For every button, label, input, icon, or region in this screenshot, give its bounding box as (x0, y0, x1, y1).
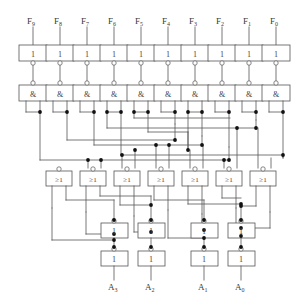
buffer-symbol: 1 (58, 50, 62, 59)
input-label-index: 9 (32, 21, 35, 27)
buffer-symbol: 1 (149, 255, 153, 264)
buffer-symbol: 1 (193, 50, 197, 59)
svg-text:F8: F8 (54, 16, 62, 27)
buffer-symbol: 1 (202, 227, 206, 236)
output-buffer-row (101, 251, 255, 266)
output-stems (114, 266, 241, 280)
buffer-symbol: 1 (220, 50, 224, 59)
buffer-symbol: 1 (239, 227, 243, 236)
or-symbol: ≥1 (55, 176, 63, 184)
input-labels: F9 F8 F7 F6 F5 F4 F3 F2 F1 F0 (27, 16, 278, 27)
buffer-symbol: 1 (112, 255, 116, 264)
or-symbol: ≥1 (89, 176, 97, 184)
or-symbol: ≥1 (191, 176, 199, 184)
input-label-index: 2 (221, 21, 224, 27)
logic-circuit-svg: 1 1 1 1 1 1 1 1 1 1 & & & & & & & & & & … (0, 0, 301, 297)
svg-text:F6: F6 (108, 16, 116, 27)
and-symbol: & (57, 90, 64, 99)
input-label-index: 3 (194, 21, 197, 27)
svg-text:A2: A2 (145, 282, 155, 293)
input-label-index: 7 (86, 21, 89, 27)
and-symbol: & (30, 90, 37, 99)
buffer-symbol: 1 (274, 50, 278, 59)
or-symbol: ≥1 (225, 176, 233, 184)
svg-text:F3: F3 (189, 16, 197, 27)
svg-text:F4: F4 (162, 16, 170, 27)
or-row (80, 171, 276, 186)
output-label-index: 2 (152, 287, 155, 293)
logic-diagram-canvas: 1 1 1 1 1 1 1 1 1 1 & & & & & & & & & & … (0, 0, 301, 297)
or-symbol: ≥1 (123, 176, 131, 184)
buffer-symbol: 1 (247, 50, 251, 59)
buffer-symbol: 1 (149, 227, 153, 236)
buffer-symbol: 1 (112, 50, 116, 59)
buffer-symbol: 1 (31, 50, 35, 59)
mid-to-out-wires (114, 238, 241, 248)
and-output-stubs (26, 101, 283, 112)
or-symbol: ≥1 (259, 176, 267, 184)
and-symbol: & (219, 90, 226, 99)
and-symbol: & (273, 90, 280, 99)
input-label-index: 6 (113, 21, 116, 27)
svg-text:F9: F9 (27, 16, 35, 27)
output-label-index: 3 (115, 287, 118, 293)
and-symbol: & (84, 90, 91, 99)
buffer-symbol: 1 (139, 50, 143, 59)
svg-text:A1: A1 (198, 282, 208, 293)
svg-text:F5: F5 (135, 16, 143, 27)
svg-text:A3: A3 (108, 282, 118, 293)
output-label-index: 0 (242, 287, 245, 293)
output-labels: A3 A2 A1 A0 (108, 282, 245, 293)
input-label-index: 1 (248, 21, 251, 27)
svg-text:F0: F0 (270, 16, 278, 27)
routing-mesh (26, 112, 283, 168)
svg-text:A0: A0 (235, 282, 245, 293)
input-stems (33, 27, 276, 45)
or-symbol: ≥1 (157, 176, 165, 184)
buffer-symbol: 1 (202, 255, 206, 264)
buffer-symbol: 1 (166, 50, 170, 59)
buffer-symbol: 1 (85, 50, 89, 59)
and-symbol: & (192, 90, 199, 99)
and-symbol: & (111, 90, 118, 99)
svg-text:F2: F2 (216, 16, 224, 27)
input-label-index: 8 (59, 21, 62, 27)
input-label-index: 0 (275, 21, 278, 27)
input-label-index: 4 (167, 21, 170, 27)
and-symbol: & (138, 90, 145, 99)
buffer-symbol: 1 (239, 255, 243, 264)
output-label-index: 1 (205, 287, 208, 293)
mid-buffer-row (101, 223, 255, 238)
and-symbol: & (165, 90, 172, 99)
svg-text:F1: F1 (243, 16, 251, 27)
buffer-symbol: 1 (112, 227, 116, 236)
svg-text:F7: F7 (81, 16, 89, 27)
and-symbol: & (246, 90, 253, 99)
buffer-to-and-wires (33, 64, 276, 82)
input-label-index: 5 (140, 21, 143, 27)
